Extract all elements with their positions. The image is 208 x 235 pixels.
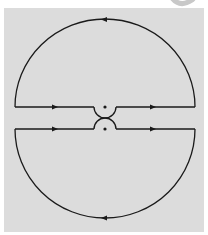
lower-left-arrow-icon	[52, 127, 58, 132]
upper-pole-dot	[103, 105, 106, 108]
lower-right-arrow-icon	[150, 127, 156, 132]
upper-right-arrow-icon	[150, 105, 156, 110]
lower-big-arc	[15, 129, 195, 218]
lower-arc-arrow-icon	[101, 216, 107, 221]
upper-big-arc	[15, 19, 195, 107]
upper-contour	[15, 19, 195, 118]
lower-pole-dot	[103, 127, 106, 130]
upper-arc-arrow-icon	[101, 17, 107, 22]
arrowheads	[52, 17, 156, 221]
lower-contour	[15, 118, 195, 218]
upper-indent-arc	[94, 107, 116, 118]
upper-left-arrow-icon	[52, 105, 58, 110]
lower-indent-arc	[94, 118, 116, 129]
contour-diagram	[0, 0, 208, 235]
